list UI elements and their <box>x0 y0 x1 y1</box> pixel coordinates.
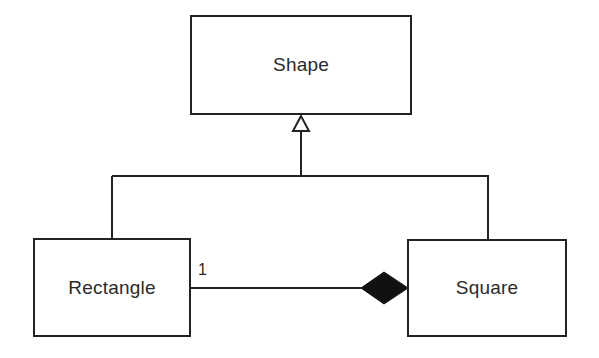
class-shape[interactable]: Shape <box>190 15 412 115</box>
class-rectangle[interactable]: Rectangle <box>33 238 191 337</box>
generalization-connector <box>112 131 489 241</box>
class-name-shape: Shape <box>273 54 329 76</box>
composition-diamond-icon <box>361 272 408 304</box>
class-name-square: Square <box>456 277 518 299</box>
uml-class-diagram: Shape Rectangle Square 1 <box>0 0 599 358</box>
class-name-rectangle: Rectangle <box>68 277 155 299</box>
generalization-triangle-icon <box>293 116 309 131</box>
class-square[interactable]: Square <box>407 239 567 337</box>
multiplicity-label: 1 <box>198 261 207 279</box>
